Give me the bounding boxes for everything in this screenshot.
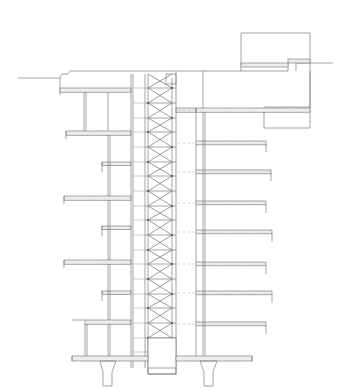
slab-left-5 <box>85 320 131 324</box>
slab-left-3 <box>64 196 131 200</box>
slab-left-1 <box>60 88 131 92</box>
slab-left-2 <box>66 131 131 135</box>
slab-left-4 <box>64 260 131 264</box>
slab-right-8 <box>196 322 266 326</box>
ground-slab-right <box>176 356 252 361</box>
slab-left-mezz-4 <box>102 291 131 295</box>
slab-right-7 <box>196 291 272 295</box>
ground-slab-left <box>72 356 148 361</box>
core-base-stem <box>148 338 176 374</box>
slab-left-mezz-2 <box>102 162 131 166</box>
drawing-sheet: Figure. Typical building section .hv{str… <box>0 0 343 389</box>
building-section-drawing: .hv{stroke:#5a5a5a;stroke-width:0.9;fill… <box>0 0 343 389</box>
slab-right-5 <box>196 230 272 234</box>
slab-right-3 <box>196 170 271 174</box>
drawing-canvas <box>0 0 343 389</box>
slab-left-mezz-3 <box>102 226 131 230</box>
slab-right-2 <box>196 141 266 145</box>
slab-right-1 <box>196 108 310 112</box>
slab-right-4 <box>196 201 266 205</box>
slab-right-6 <box>196 262 266 266</box>
